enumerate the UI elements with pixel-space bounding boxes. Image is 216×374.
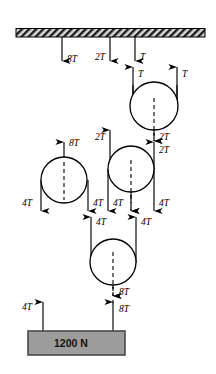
label-left-pulley-down-4T-r: 4T [93, 199, 103, 209]
diagram-svg [0, 0, 216, 374]
label-left-pulley-up-8T: 8T [69, 139, 79, 149]
label-bottom-pulley-down-8T: 8T [119, 288, 129, 298]
label-top-pulley-right-T: T [182, 70, 187, 80]
label-mid-pulley-left-2T: 2T [95, 133, 105, 143]
label-mid-pulley-down-4T-l: 4T [113, 199, 123, 209]
ceiling-support [16, 29, 205, 38]
label-block-up-8T: 8T [119, 305, 129, 315]
label-mid-pulley-up-2T: 2T [159, 146, 169, 156]
block-weight-label: 1200 N [54, 338, 88, 349]
label-top-pulley-left-T: T [138, 70, 143, 80]
label-ceiling-2T: 2T [95, 53, 105, 63]
label-bottom-pulley-up-4T-r: 4T [141, 218, 151, 228]
pulleys [41, 82, 178, 285]
label-ceiling-8T: 8T [67, 55, 77, 65]
label-bottom-pulley-up-4T-l: 4T [96, 218, 106, 228]
label-left-pulley-down-4T-l: 4T [22, 199, 32, 209]
label-mid-pulley-down-4T-r: 4T [159, 199, 169, 209]
label-top-pulley-down-2T: 2T [159, 133, 169, 143]
diagram-canvas: 8T 2T T T T 2T 2T 2T 8T 4T 4T 4T 4T 4T 4… [0, 0, 216, 374]
label-ceiling-T: T [140, 53, 145, 63]
label-block-up-4T: 4T [22, 303, 32, 313]
